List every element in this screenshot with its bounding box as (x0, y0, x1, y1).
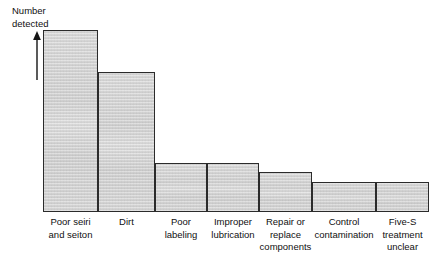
x-label-repair-or-replace-components: Repair or replace components (255, 216, 316, 254)
x-label-improper-lubrication: Improper lubrication (204, 216, 262, 241)
category-labels: Poor seiri and seiton Dirt Poor labeling… (43, 216, 429, 266)
plot-area (43, 30, 429, 212)
bar-poor-labeling (155, 163, 207, 212)
y-axis-arrow-icon (30, 30, 44, 80)
bar-five-s-treatment-unclear (376, 182, 429, 212)
x-label-dirt: Dirt (97, 216, 156, 229)
x-label-poor-seiri-and-seiton: Poor seiri and seiton (36, 216, 105, 241)
bar-control-contamination (312, 182, 376, 212)
bar-dirt (98, 72, 155, 212)
bar-improper-lubrication (207, 163, 259, 212)
x-label-control-contamination: Control contamination (309, 216, 379, 241)
x-label-poor-labeling: Poor labeling (153, 216, 209, 241)
x-label-five-s-treatment-unclear: Five-S treatment unclear (376, 216, 429, 254)
bar-repair-or-replace-components (259, 172, 312, 212)
y-axis-label: Number detected (12, 4, 90, 30)
pareto-bar-chart: Number detected Poor seiri and seiton Di… (0, 0, 444, 270)
bar-poor-seiri-and-seiton (43, 30, 98, 212)
